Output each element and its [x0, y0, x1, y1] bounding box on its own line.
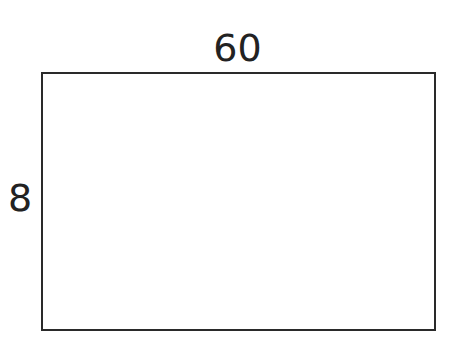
- rectangle-width-label: 60: [0, 26, 455, 70]
- rectangle-shape: [41, 72, 436, 331]
- rectangle-height-label: 8: [8, 176, 32, 220]
